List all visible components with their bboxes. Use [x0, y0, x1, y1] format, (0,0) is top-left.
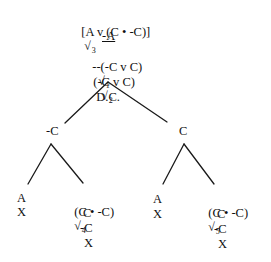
branch-line-left-left [28, 144, 51, 184]
leaf-left-right-line-1: C [83, 206, 91, 220]
check-mark-icon: √2 [101, 89, 113, 103]
branch-line-right-left [163, 144, 184, 184]
trunk-line-4: (-C v C) √2 [87, 61, 135, 105]
formula: (C • -C) [208, 206, 248, 220]
branch-label-left: -C [46, 124, 59, 138]
branch-line-right-right [184, 144, 214, 184]
trunk-line-2-negated-conclusion: -A [102, 29, 115, 43]
branch-line-left-right [51, 144, 83, 183]
leaf-left-left-closed-marker: X [17, 205, 26, 219]
leaf-left-right-line-2: -C [80, 221, 93, 235]
leaf-left-right-closed-marker: X [84, 236, 93, 250]
leaf-right-right-line-2: -C [214, 222, 227, 236]
leaf-right-right-line-1: C [217, 207, 225, 221]
formula: [A v (C • -C)] [81, 25, 150, 39]
leaf-right-left-closed-marker: X [153, 207, 162, 221]
formula: (C • -C) [74, 205, 114, 219]
formula: (-C v C) [93, 75, 135, 89]
leaf-right-left-line-1: A [153, 192, 162, 206]
leaf-left-left-line-1: A [17, 191, 26, 205]
leaf-right-right-closed-marker: X [218, 237, 227, 251]
branch-label-right: C [179, 124, 187, 138]
